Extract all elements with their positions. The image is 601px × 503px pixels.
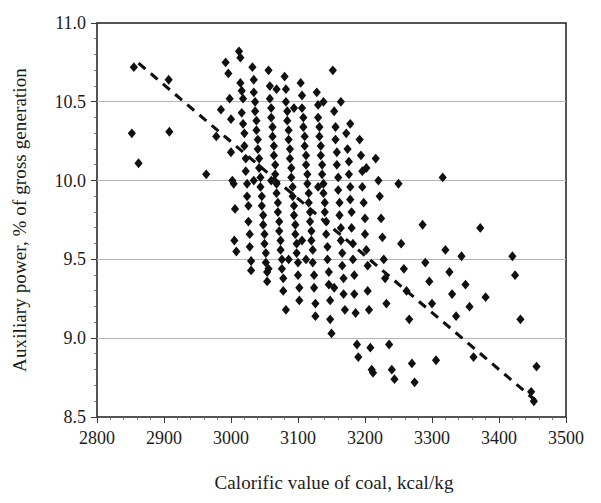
scatter-plot-svg: 8.59.09.510.010.511.0 280029003000310032… [0, 0, 601, 503]
y-axis-ticks [91, 23, 97, 417]
x-tick-label-2900: 2900 [146, 428, 182, 448]
x-tick-label-2800: 2800 [79, 428, 115, 448]
x-axis-tick-labels: 28002900300031003200330034003500 [79, 428, 584, 448]
x-tick-label-3300: 3300 [414, 428, 450, 448]
y-tick-label-8.5: 8.5 [64, 407, 87, 427]
x-tick-label-3400: 3400 [481, 428, 517, 448]
x-axis-title: Calorific value of coal, kcal/kg [214, 472, 453, 493]
y-tick-label-10.0: 10.0 [55, 171, 87, 191]
y-axis-title: Auxiliary power, % of gross generation [9, 68, 30, 372]
chart-figure: 8.59.09.510.010.511.0 280029003000310032… [0, 0, 601, 503]
y-tick-label-9.0: 9.0 [64, 328, 87, 348]
y-axis-tick-labels: 8.59.09.510.010.511.0 [55, 13, 87, 427]
x-tick-label-3500: 3500 [548, 428, 584, 448]
y-tick-label-9.5: 9.5 [64, 249, 87, 269]
y-tick-label-10.5: 10.5 [55, 92, 87, 112]
x-axis-ticks [97, 417, 566, 423]
x-tick-label-3100: 3100 [280, 428, 316, 448]
x-tick-label-3200: 3200 [347, 428, 383, 448]
x-tick-label-3000: 3000 [213, 428, 249, 448]
y-tick-label-11.0: 11.0 [55, 13, 86, 33]
